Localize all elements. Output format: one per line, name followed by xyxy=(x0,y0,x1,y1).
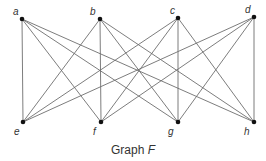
vertex-h xyxy=(252,120,257,125)
vertex-label-d: d xyxy=(245,4,251,15)
vertex-label-c: c xyxy=(170,5,175,16)
vertex-e xyxy=(21,120,26,125)
edge-group xyxy=(22,17,254,122)
graph-f-diagram: abcdefgh xyxy=(0,0,266,161)
caption-prefix: Graph xyxy=(111,143,148,157)
vertex-f xyxy=(99,120,104,125)
vertex-label-b: b xyxy=(90,6,96,17)
vertex-label-h: h xyxy=(244,126,250,137)
vertex-d xyxy=(252,15,257,20)
graph-caption: Graph F xyxy=(0,143,266,157)
vertex-b xyxy=(98,17,103,22)
vertex-label-a: a xyxy=(13,6,19,17)
vertex-label-f: f xyxy=(93,126,97,137)
edge-a-e xyxy=(22,19,23,122)
vertex-label-g: g xyxy=(168,126,174,137)
vertex-label-e: e xyxy=(14,126,20,137)
vertex-c xyxy=(176,16,181,21)
vertex-g xyxy=(176,120,181,125)
edge-b-e xyxy=(23,19,100,122)
caption-variable: F xyxy=(148,143,155,157)
vertex-a xyxy=(20,17,25,22)
